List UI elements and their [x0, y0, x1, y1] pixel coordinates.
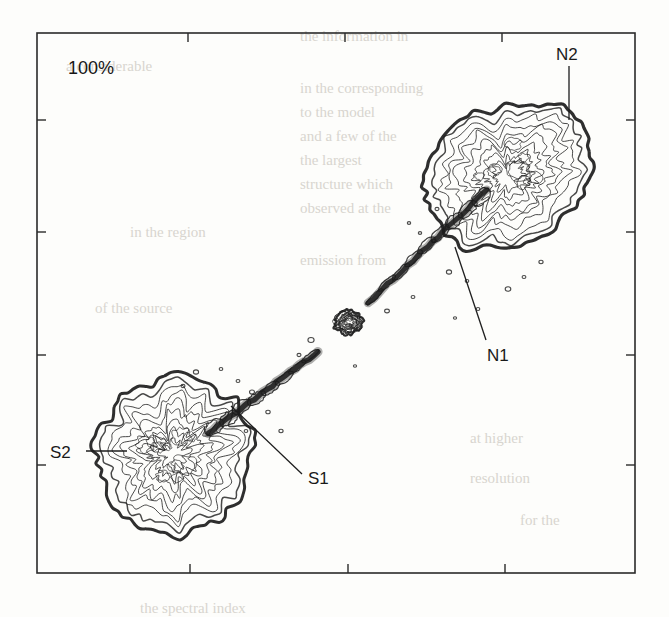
contour-level-0 [91, 371, 256, 539]
noise-speckle [308, 338, 314, 343]
noise-speckle [266, 410, 270, 414]
plot-frame-group [37, 33, 635, 573]
noise-speckle [244, 430, 248, 433]
noise-speckle [476, 308, 480, 311]
noise-speckle [539, 260, 543, 263]
noise-speckle [522, 275, 526, 278]
leader-line-n1 [455, 247, 486, 340]
noise-speckle [279, 429, 283, 432]
noise-speckle [505, 287, 511, 291]
noise-speckle [236, 379, 240, 382]
noise-speckle [453, 317, 456, 320]
contour-level-5 [464, 133, 556, 221]
noise-speckle [219, 368, 223, 371]
annotations-group: 100%N2N1S1S2 [50, 45, 578, 488]
leader-line-s1 [231, 406, 302, 474]
noise-speckle [435, 207, 439, 210]
jet-outer-contour [208, 352, 318, 434]
contour-inner-detail [475, 173, 485, 181]
plot-frame [37, 33, 635, 573]
noise-speckle [407, 222, 410, 225]
noise-speckle [353, 365, 356, 368]
noise-speckle [446, 270, 451, 274]
component-label-n1: N1 [487, 346, 509, 365]
noise-speckle [250, 390, 255, 394]
contour-level-6 [471, 142, 544, 212]
component-label-s1: S1 [308, 469, 329, 488]
component-label-n2: N2 [556, 45, 578, 64]
noise-speckle [418, 232, 421, 235]
peak-scale-label: 100% [68, 58, 114, 78]
noise-speckle [411, 295, 415, 298]
noise-speckle [385, 309, 390, 313]
contour-inner-detail [163, 443, 172, 450]
noise-speckle [297, 353, 301, 356]
noise-speckle [193, 370, 198, 374]
contour-lines-group [91, 103, 595, 540]
component-label-s2: S2 [50, 443, 71, 462]
